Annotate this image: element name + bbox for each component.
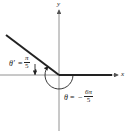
terminal-side [6, 35, 59, 75]
y-axis-label: y [57, 1, 60, 8]
angle-denominator: 5 [87, 97, 91, 104]
angle-equals: = [70, 94, 75, 102]
reference-angle-denominator: 5 [25, 63, 29, 70]
reference-angle-fraction: π 5 [24, 55, 30, 70]
x-axis-label: x [121, 71, 124, 78]
reference-angle-symbol: θ′ [9, 60, 15, 68]
angle-symbol: θ [64, 94, 68, 102]
angle-fraction: 6π 5 [84, 89, 93, 104]
reference-angle-equals: = [18, 60, 23, 68]
angle-sign: − [78, 94, 83, 102]
